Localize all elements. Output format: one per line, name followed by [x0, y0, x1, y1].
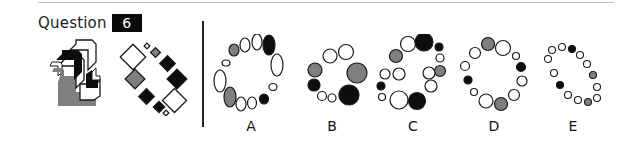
circle-white-small-2 [328, 94, 336, 102]
ellipse-white-small-left [222, 60, 230, 66]
circles-ring-figure-d [458, 34, 530, 114]
circle-white-right-lower [425, 80, 437, 92]
circle-white-3 [545, 56, 552, 63]
ellipse-black-top-right [263, 35, 275, 55]
ellipse-white-left [214, 70, 226, 92]
circle-white-top-left [470, 48, 481, 59]
circle-white-top [401, 37, 416, 52]
circle-white-top-left [323, 49, 337, 63]
ellipse-white-2 [252, 34, 262, 50]
circle-white-small-right [513, 53, 520, 60]
small-chevron-right [92, 68, 100, 80]
question-number-badge: 6 [112, 14, 142, 32]
circle-black-top-right-small [435, 43, 443, 51]
option-b-label[interactable]: B [322, 118, 342, 134]
circle-white-1 [549, 47, 556, 54]
circle-white-bottom [479, 94, 493, 108]
circle-white-bottom-large [390, 91, 408, 109]
ellipse-white-right [271, 54, 283, 76]
ellipse-black-bottom [260, 94, 269, 104]
ellipses-ring-figure [212, 34, 290, 114]
ellipse-white-bottom-2 [248, 97, 257, 109]
sequence-figure-2 [118, 36, 198, 116]
circle-black-left [464, 76, 472, 84]
circle-grey-bottom [585, 99, 592, 106]
circle-white-4 [577, 52, 584, 59]
circle-white-2 [559, 44, 566, 51]
option-c-label[interactable]: C [403, 118, 423, 134]
circle-white-10 [594, 95, 601, 102]
circle-grey-top-left [390, 50, 403, 63]
question-label: Question [38, 14, 107, 32]
option-e-label[interactable]: E [563, 118, 583, 134]
circle-white-small-1 [318, 92, 327, 101]
squares-ring-figure [118, 36, 198, 116]
circle-white-small-bottom-left [471, 89, 478, 96]
circle-white-left [461, 62, 470, 71]
circle-grey-left [308, 63, 322, 77]
circle-white-small-bottom-left [379, 94, 386, 101]
option-a-figure[interactable] [212, 34, 290, 114]
square-grey-left [125, 69, 145, 89]
circle-white-inner-left-1 [380, 69, 390, 79]
circle-white-5 [584, 61, 591, 68]
chevron-arrows-figure [40, 36, 114, 112]
circle-white-inner-left-2 [393, 68, 405, 80]
ellipse-white-1 [240, 38, 250, 52]
square-white-large-bottomright [162, 88, 186, 112]
square-white-tiny-top [144, 43, 150, 49]
sequence-figure-1 [40, 36, 114, 112]
circle-grey-right [347, 63, 367, 83]
option-c-figure[interactable] [375, 34, 455, 116]
circle-white-6 [551, 70, 558, 77]
option-d-label[interactable]: D [484, 118, 504, 134]
option-b-figure[interactable] [300, 34, 370, 114]
top-rule [38, 2, 614, 3]
circles-double-ring-figure-c [375, 34, 455, 116]
circle-white-top-right [496, 41, 511, 56]
square-black-top-right [160, 56, 176, 72]
question-header: Question 6 [38, 14, 142, 32]
circle-black-top [569, 46, 576, 53]
square-white-tiny-bottom [163, 110, 169, 116]
circles-ring-figure-b [300, 34, 370, 114]
square-grey-small-top [151, 48, 161, 58]
circle-black-large [339, 85, 359, 105]
circle-grey-bottom [495, 98, 508, 111]
ellipse-grey-top [229, 44, 239, 56]
circle-white-right-bottom [509, 90, 520, 101]
option-d-figure[interactable] [458, 34, 530, 114]
square-black-small-bottom [153, 101, 164, 112]
circle-white-8 [565, 92, 572, 99]
circle-white-top-right [339, 45, 354, 60]
small-circles-oval-figure-e [542, 42, 604, 114]
circle-white-right-lower [517, 76, 527, 86]
circle-black-bottom-large [409, 93, 426, 110]
circle-black-top-large [415, 34, 433, 51]
circle-black-right [517, 63, 526, 72]
circle-white-9 [575, 97, 582, 104]
circle-black-left-small [377, 82, 385, 90]
circle-white-right-small [436, 54, 444, 62]
circle-grey-right [435, 66, 446, 77]
section-divider [202, 21, 204, 127]
square-white-large-topleft [120, 44, 145, 69]
circle-grey-top [482, 38, 495, 51]
ellipse-white-bottom-1 [236, 97, 246, 111]
option-a-label[interactable]: A [241, 118, 261, 134]
circle-grey-right [590, 72, 597, 79]
circle-white-inner-right [423, 67, 435, 79]
option-e-figure[interactable] [542, 42, 604, 114]
circle-black-left [308, 79, 320, 91]
circle-black-left [557, 82, 564, 89]
square-black-bottom-left [139, 89, 155, 105]
circle-white-7 [594, 84, 601, 91]
ellipse-white-small-right [269, 84, 277, 91]
ellipse-grey-bottom-left [224, 87, 236, 107]
square-black-right [167, 69, 187, 89]
